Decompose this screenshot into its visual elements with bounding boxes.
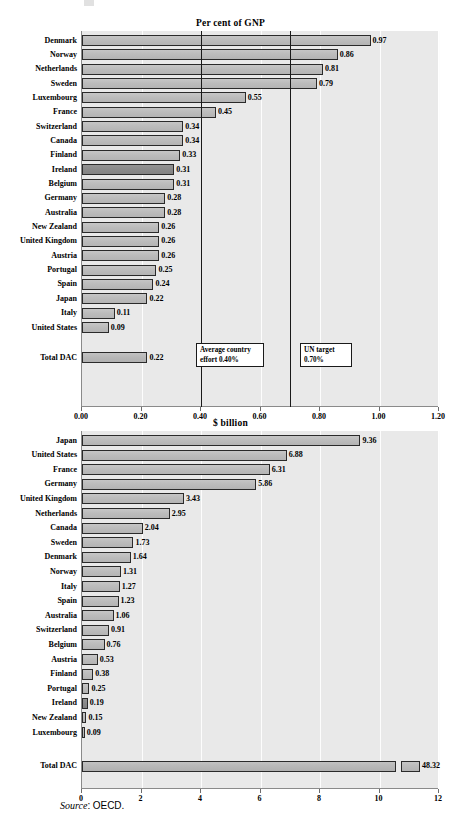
bar [82,222,159,233]
bar-value-label: 0.31 [176,166,190,174]
bar-value-label: 0.28 [167,209,181,217]
bar-row [82,493,439,504]
bar [82,92,246,103]
bar-row [82,669,439,680]
total-value-label: 48.32 [422,762,440,770]
tick-mark [379,407,380,411]
bar-row [82,322,439,333]
bar-row [82,523,439,534]
category-label: Portugal [0,685,77,693]
category-label: Sweden [0,80,77,88]
category-label: Netherlands [0,65,77,73]
bar-value-label: 0.25 [158,266,172,274]
bar [82,107,216,118]
reference-line-1 [290,31,291,407]
bar-value-label: 0.79 [319,80,333,88]
bar-value-label: 0.22 [149,354,163,362]
total-bar-segment-tip [401,761,420,772]
category-label: Sweden [0,539,77,547]
bar [82,236,159,247]
bar [82,193,165,204]
bar-row [82,135,439,146]
gridline [439,431,440,789]
annotation-line-1: Average country [200,346,260,356]
annotation-box-0: Average countryeffort 0.40% [196,343,264,367]
category-label: France [0,466,77,474]
bar-value-label: 0.55 [248,94,262,102]
bar-value-label: 3.43 [186,495,200,503]
tick-mark [141,407,142,411]
category-label: Ireland [0,699,77,707]
category-label: Netherlands [0,510,77,518]
bar-value-label: 0.81 [325,65,339,73]
category-label: Germany [0,194,77,202]
bar-value-label: 0.97 [373,37,387,45]
category-label: United States [0,324,77,332]
annotation-line-2: 0.70% [304,356,348,366]
category-label: United Kingdom [0,495,77,503]
x-tick-label: 4 [180,795,220,803]
total-bar-segment-main [82,761,396,772]
bar-row [82,164,439,175]
total-category-label: Total DAC [0,762,77,770]
bar-value-label: 0.09 [111,324,125,332]
bar [82,49,338,60]
bar-value-label: 0.22 [149,295,163,303]
category-label: Total DAC [0,354,77,362]
category-label: Japan [0,295,77,303]
x-tick-label: 12 [418,795,458,803]
bar-row [82,464,439,475]
bar-row [82,596,439,607]
category-label: Switzerland [0,123,77,131]
bar-value-label: 0.45 [218,108,232,116]
bar [82,464,270,475]
tick-mark [260,407,261,411]
bar-value-label: 6.31 [272,466,286,474]
category-label: Japan [0,437,77,445]
bar [82,508,170,519]
x-tick-label: 8 [299,795,339,803]
bar-row [82,265,439,276]
bar-row [82,508,439,519]
bar-value-label: 0.33 [182,151,196,159]
bar [82,435,360,446]
category-label: Finland [0,670,77,678]
x-tick-label: 6 [240,795,280,803]
bar-value-label: 2.95 [172,510,186,518]
source-note: Source: OECD. [60,800,124,811]
bar-value-label: 1.64 [133,553,147,561]
bar-value-label: 1.31 [123,568,137,576]
bar [82,596,119,607]
bar [82,698,88,709]
category-label: Switzerland [0,626,77,634]
bar-value-label: 1.23 [121,597,135,605]
bar [82,279,153,290]
bar-value-label: 0.34 [185,123,199,131]
tick-mark [319,407,320,411]
bar-row [82,654,439,665]
bar-value-label: 0.19 [90,699,104,707]
bar [82,552,131,563]
bar-value-label: 0.53 [100,656,114,664]
bar [82,639,105,650]
bar [82,308,115,319]
bar-row [82,625,439,636]
bar [82,493,184,504]
bar-value-label: 0.26 [161,223,175,231]
bar-row-total-broken [82,761,439,772]
category-label: United Kingdom [0,237,77,245]
bar [82,669,93,680]
category-label: New Zealand [0,714,77,722]
bar-row [82,279,439,290]
category-label: Luxembourg [0,729,77,737]
bar [82,625,109,636]
bar-value-label: 2.04 [145,524,159,532]
tick-mark [81,789,82,793]
bar [82,479,256,490]
tick-mark [200,407,201,411]
category-label: Canada [0,524,77,532]
category-label: Ireland [0,166,77,174]
chart-dollar-billion: $ billion 9.36Japan6.88United States6.31… [0,418,461,803]
category-label: Belgium [0,180,77,188]
category-label: Norway [0,51,77,59]
